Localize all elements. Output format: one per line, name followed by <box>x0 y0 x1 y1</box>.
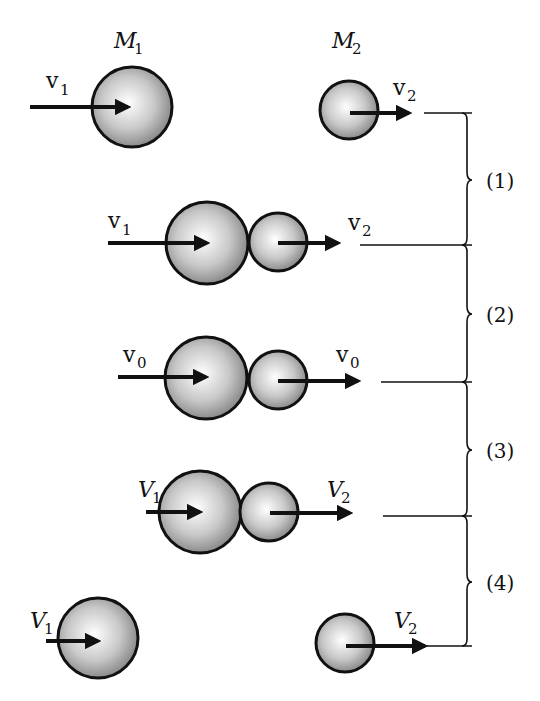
mass1-label: M 1 <box>113 28 144 58</box>
brace-4-icon <box>462 516 472 646</box>
svg-text:2: 2 <box>408 620 418 638</box>
ball-m2 <box>320 81 378 139</box>
row-3-compression: v 0 v 0 <box>118 337 360 419</box>
interval-1-label: (1) <box>486 169 514 193</box>
svg-text:v: v <box>335 342 349 367</box>
svg-text:1: 1 <box>122 221 132 239</box>
brace-2-icon <box>462 245 472 382</box>
brace-1-icon <box>462 113 472 245</box>
brace-3-icon <box>462 382 472 516</box>
svg-text:v: v <box>45 68 59 93</box>
collision-diagram: M 1 M 2 v 1 v 2 v 1 v 2 v 0 v 0 <box>0 0 540 701</box>
interval-3-label: (3) <box>486 439 514 463</box>
braces <box>462 113 472 646</box>
row-4-separation: V 1 V 2 <box>138 471 351 553</box>
row-2-contact: v 1 v 2 <box>107 202 372 284</box>
svg-text:1: 1 <box>60 81 70 99</box>
row-5-after: V 1 V 2 <box>30 598 425 678</box>
svg-text:v: v <box>107 208 121 233</box>
svg-text:1: 1 <box>44 620 54 638</box>
ball-m1 <box>58 598 138 678</box>
interval-4-label: (4) <box>486 571 514 595</box>
svg-text:2: 2 <box>407 87 417 105</box>
svg-text:0: 0 <box>350 354 360 372</box>
svg-text:2: 2 <box>352 40 362 58</box>
svg-text:v: v <box>122 342 136 367</box>
svg-text:1: 1 <box>152 489 162 507</box>
svg-text:v: v <box>392 75 406 100</box>
interval-labels: (1) (2) (3) (4) <box>486 169 514 595</box>
mass2-label: M 2 <box>331 28 362 58</box>
svg-text:v: v <box>347 210 361 235</box>
ball-m2 <box>316 614 374 672</box>
row-1-before: v 1 v 2 <box>30 67 417 147</box>
svg-text:1: 1 <box>134 40 144 58</box>
svg-text:2: 2 <box>362 222 372 240</box>
interval-2-label: (2) <box>486 303 514 327</box>
reference-lines <box>360 113 472 646</box>
svg-text:2: 2 <box>341 489 351 507</box>
svg-text:0: 0 <box>137 354 147 372</box>
